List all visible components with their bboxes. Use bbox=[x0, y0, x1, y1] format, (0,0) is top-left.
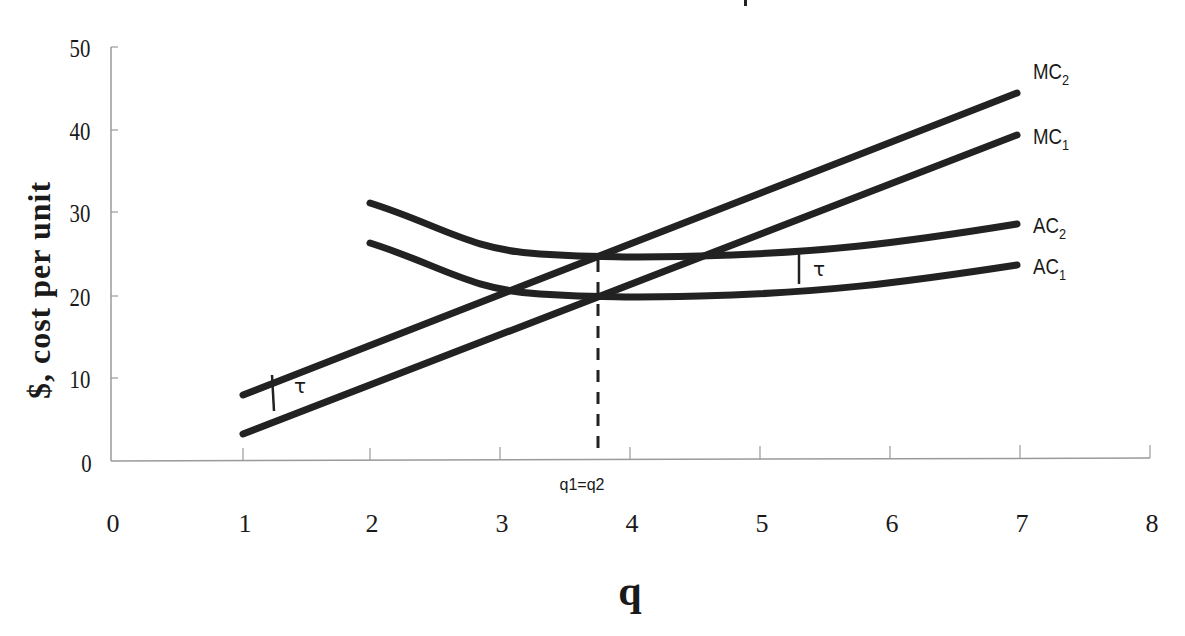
x-tick-4: 4 bbox=[626, 509, 639, 538]
y-axis-title: $, cost per unit bbox=[21, 181, 57, 399]
y-tick-0: 0 bbox=[81, 449, 91, 478]
tau-right-label: τ bbox=[813, 257, 825, 281]
y-tick-50: 50 bbox=[70, 34, 91, 63]
y-tick-40: 40 bbox=[70, 117, 91, 146]
ac2-curve bbox=[370, 203, 1017, 257]
y-tick-labels: 50 40 30 20 10 0 bbox=[70, 34, 92, 478]
ac1-curve bbox=[370, 243, 1017, 297]
ac2-label: AC2 bbox=[1033, 214, 1066, 243]
x-tick-5: 5 bbox=[756, 509, 769, 538]
x-tick-3: 3 bbox=[496, 509, 509, 538]
svg-text:MC2: MC2 bbox=[1033, 60, 1069, 89]
equilibrium-label: q1=q2 bbox=[560, 476, 605, 493]
x-tick-labels: 0 1 2 3 4 5 6 7 8 bbox=[107, 509, 1159, 538]
y-tick-10: 10 bbox=[70, 365, 91, 394]
x-tick-1: 1 bbox=[239, 509, 252, 538]
x-tick-8: 8 bbox=[1146, 509, 1159, 538]
tau-left-label: τ bbox=[294, 374, 306, 398]
cost-curves-chart: 50 40 30 20 10 0 0 1 2 3 4 5 6 7 8 $, co… bbox=[0, 0, 1185, 636]
x-axis-title: q bbox=[618, 568, 641, 614]
svg-text:AC1: AC1 bbox=[1033, 255, 1066, 284]
svg-text:AC2: AC2 bbox=[1033, 214, 1066, 243]
x-tick-6: 6 bbox=[886, 509, 899, 538]
mc2-label: MC2 bbox=[1033, 60, 1069, 89]
y-tick-30: 30 bbox=[70, 199, 91, 228]
title-fragment bbox=[744, 0, 747, 6]
ac1-label: AC1 bbox=[1033, 255, 1066, 284]
x-tick-0: 0 bbox=[107, 509, 120, 538]
x-tick-2: 2 bbox=[366, 509, 379, 538]
y-tick-20: 20 bbox=[70, 283, 91, 312]
y-axis bbox=[111, 47, 118, 461]
svg-text:MC1: MC1 bbox=[1033, 125, 1069, 154]
mc1-label: MC1 bbox=[1033, 125, 1069, 154]
x-axis bbox=[111, 445, 1150, 461]
x-tick-7: 7 bbox=[1016, 509, 1029, 538]
